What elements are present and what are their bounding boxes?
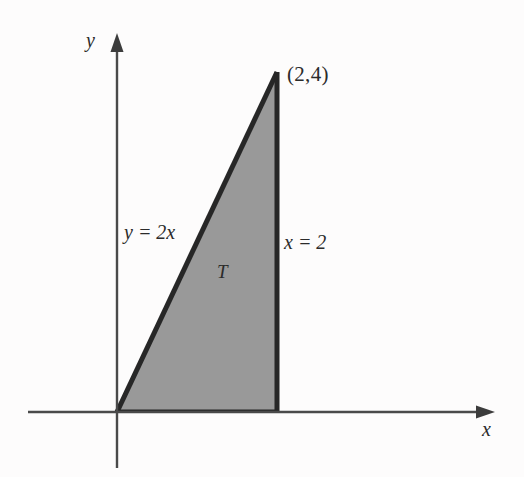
y-axis-arrowhead-icon	[111, 33, 124, 52]
y-axis-label: y	[86, 30, 95, 50]
figure-canvas: y x y = 2x x = 2 T (2,4)	[0, 0, 524, 477]
coordinate-plane-graphic	[0, 0, 524, 477]
line-equation-label: y = 2x	[124, 222, 175, 242]
apex-coordinate-label: (2,4)	[287, 64, 329, 85]
x-axis-label: x	[482, 419, 491, 439]
x-axis-arrowhead-icon	[476, 406, 495, 419]
region-label: T	[217, 262, 228, 281]
vertical-boundary-label: x = 2	[284, 232, 326, 252]
